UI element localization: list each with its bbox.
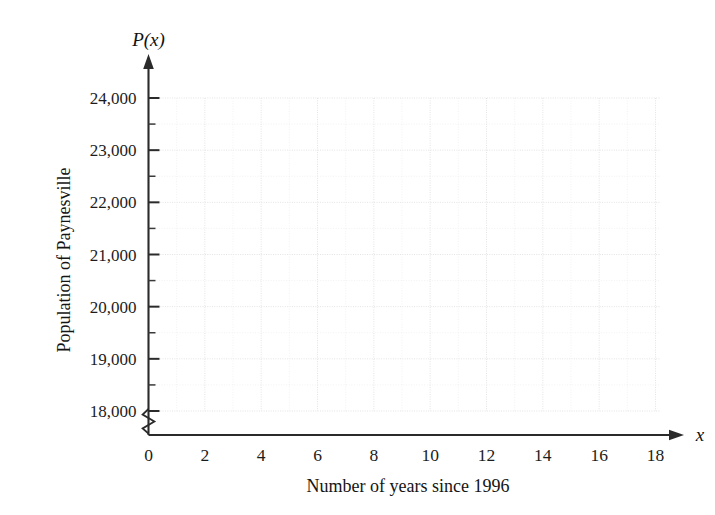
x-tick-label: 2	[200, 445, 209, 465]
x-axis-variable-label: x	[695, 424, 705, 445]
population-graph-figure: 18,00019,00020,00021,00022,00023,00024,0…	[0, 0, 715, 515]
x-tick-label: 18	[647, 445, 665, 465]
y-axis-variable-label: P(x)	[131, 29, 165, 51]
x-tick-label: 10	[421, 445, 439, 465]
y-tick-label: 20,000	[90, 298, 137, 317]
y-tick-label: 24,000	[90, 89, 137, 108]
y-tick-label: 19,000	[90, 350, 137, 369]
x-tick-label: 14	[534, 445, 552, 465]
x-tick-label: 16	[590, 445, 608, 465]
y-tick-label: 18,000	[90, 402, 137, 421]
y-tick-label: 23,000	[90, 141, 137, 160]
x-axis-title: Number of years since 1996	[307, 476, 510, 496]
y-axis-title: Population of Paynesville	[54, 167, 74, 352]
chart-canvas: 18,00019,00020,00021,00022,00023,00024,0…	[0, 0, 715, 515]
x-tick-label: 12	[478, 445, 496, 465]
x-tick-label: 8	[369, 445, 378, 465]
x-tick-label: 4	[257, 445, 266, 465]
x-tick-label: 6	[313, 445, 322, 465]
x-tick-label: 0	[144, 445, 153, 465]
y-tick-label: 22,000	[90, 193, 137, 212]
y-tick-label: 21,000	[90, 246, 137, 265]
